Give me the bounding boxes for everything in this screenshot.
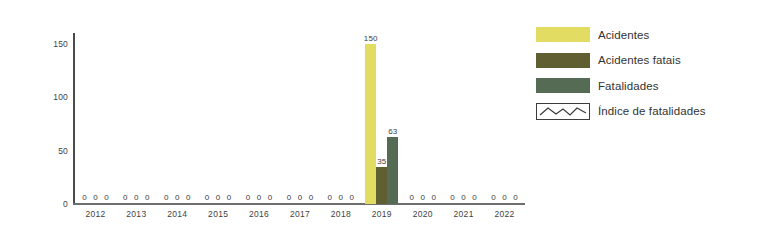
bar-value-label: 35: [377, 157, 386, 166]
bar-value-label: 0: [472, 193, 477, 202]
bar-slot: 63: [387, 33, 398, 204]
bar-group: 000: [320, 33, 361, 204]
bar-slot: 0: [417, 33, 428, 204]
legend-line-swatch-icon: [536, 103, 590, 120]
bar-slot: 0: [447, 33, 458, 204]
x-axis-tick-label: 2015: [198, 209, 239, 219]
x-axis-tick-label: 2012: [75, 209, 116, 219]
bar-group-bars: 000: [280, 33, 321, 204]
bar-slot: 0: [488, 33, 499, 204]
bar-value-label: 0: [409, 193, 414, 202]
bar-value-label: 0: [328, 193, 333, 202]
bar-group-bars: 000: [198, 33, 239, 204]
bar-value-label: 0: [513, 193, 518, 202]
y-axis-tick-label: 50: [38, 146, 68, 156]
bar-value-label: 0: [134, 193, 139, 202]
bar-slot: 35: [376, 33, 387, 204]
bar-value-label: 63: [388, 127, 397, 136]
bar-slot: 0: [335, 33, 346, 204]
x-axis-tick-label: 2020: [402, 209, 443, 219]
x-axis-tick-label: 2021: [443, 209, 484, 219]
x-axis-tick-label: 2022: [484, 209, 525, 219]
legend-item-label: Acidentes fatais: [598, 54, 681, 66]
bar-slot: 0: [346, 33, 357, 204]
bar-slot: 0: [120, 33, 131, 204]
bar-group-bars: 1503563: [361, 33, 402, 204]
bar-slot: 0: [161, 33, 172, 204]
x-axis-tick-label: 2017: [280, 209, 321, 219]
bar-slot: 0: [283, 33, 294, 204]
bar-value-label: 0: [431, 193, 436, 202]
bar-group-bars: 000: [157, 33, 198, 204]
x-axis-tick-label: 2014: [157, 209, 198, 219]
y-axis-tick: 100: [34, 92, 68, 102]
bar-value-label: 0: [309, 193, 314, 202]
bar-value-label: 0: [461, 193, 466, 202]
bar-group: 000: [280, 33, 321, 204]
bar-group: 000: [198, 33, 239, 204]
bar-value-label: 0: [298, 193, 303, 202]
bar-slot: 0: [305, 33, 316, 204]
bar-value-label: 0: [246, 193, 251, 202]
bar-slot: 0: [101, 33, 112, 204]
legend-item-label: Índice de fatalidades: [598, 105, 706, 117]
legend-color-swatch: [536, 27, 590, 42]
bar-slot: 0: [224, 33, 235, 204]
bar-group: 000: [484, 33, 525, 204]
bar-group-bars: 000: [116, 33, 157, 204]
bar-slot: 0: [254, 33, 265, 204]
bar-slot: 0: [510, 33, 521, 204]
bar-value-label: 0: [123, 193, 128, 202]
bar[interactable]: 63: [387, 137, 398, 204]
legend-item-label: Fatalidades: [598, 80, 659, 92]
bar-slot: 0: [458, 33, 469, 204]
legend-item[interactable]: Acidentes fatais: [536, 48, 765, 74]
bar-group-bars: 000: [75, 33, 116, 204]
bar-value-label: 0: [104, 193, 109, 202]
bar-value-label: 0: [502, 193, 507, 202]
bar-chart: 150100500 000000000000000000000150356300…: [0, 0, 765, 243]
legend-item[interactable]: Fatalidades: [536, 73, 765, 99]
bar-slot: 0: [79, 33, 90, 204]
bar-value-label: 0: [145, 193, 150, 202]
x-axis-tick-label: 2016: [239, 209, 280, 219]
bar-value-label: 0: [491, 193, 496, 202]
bar-slot: 0: [90, 33, 101, 204]
bar-slot: 150: [365, 33, 376, 204]
bar-slot: 0: [324, 33, 335, 204]
bar-group-bars: 000: [320, 33, 361, 204]
legend-item[interactable]: Acidentes: [536, 22, 765, 48]
bar-slot: 0: [294, 33, 305, 204]
bar-slot: 0: [172, 33, 183, 204]
x-axis-tick-labels: 2012201320142015201620172018201920202021…: [75, 209, 525, 219]
bar-group: 000: [75, 33, 116, 204]
bar-slot: 0: [265, 33, 276, 204]
bar-slot: 0: [202, 33, 213, 204]
legend-item-label: Acidentes: [598, 29, 649, 41]
bar[interactable]: 150: [365, 44, 376, 204]
bar-slot: 0: [469, 33, 480, 204]
x-axis-tick-label: 2013: [116, 209, 157, 219]
chart-legend: AcidentesAcidentes fataisFatalidadesÍndi…: [536, 22, 765, 124]
bar-value-label: 0: [268, 193, 273, 202]
legend-color-swatch: [536, 78, 590, 93]
bar-slot: 0: [499, 33, 510, 204]
bar-slot: 0: [406, 33, 417, 204]
bar-value-label: 0: [93, 193, 98, 202]
legend-item[interactable]: Índice de fatalidades: [536, 99, 765, 125]
bar-group: 000: [116, 33, 157, 204]
x-axis-tick-label: 2019: [361, 209, 402, 219]
bar-value-label: 0: [339, 193, 344, 202]
plot-area: 150100500 000000000000000000000150356300…: [0, 0, 540, 243]
bar-value-label: 0: [82, 193, 87, 202]
bar-group: 000: [239, 33, 280, 204]
bar-value-label: 0: [450, 193, 455, 202]
bar-group: 1503563: [361, 33, 402, 204]
bar-slot: 0: [142, 33, 153, 204]
x-axis-tick-label: 2018: [320, 209, 361, 219]
bar-value-label: 0: [186, 193, 191, 202]
bar-group-bars: 000: [402, 33, 443, 204]
bar[interactable]: 35: [376, 167, 387, 204]
bar-slot: 0: [183, 33, 194, 204]
bar-group: 000: [443, 33, 484, 204]
